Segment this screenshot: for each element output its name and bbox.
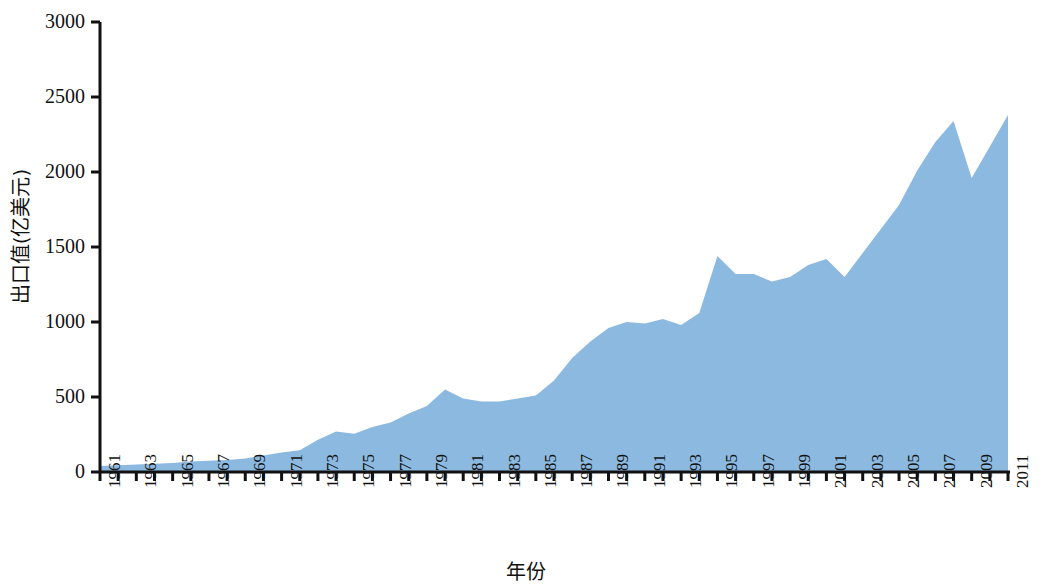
x-axis-tick-label: 1975 bbox=[360, 454, 377, 488]
x-axis-tick-label: 1971 bbox=[288, 454, 305, 488]
x-axis-tick-label: 1991 bbox=[651, 454, 668, 488]
y-axis-tick-label: 1500 bbox=[27, 236, 85, 256]
x-axis-tick-label: 2001 bbox=[832, 454, 849, 488]
x-axis-tick-label: 1987 bbox=[578, 454, 595, 488]
x-axis-tick-label: 1983 bbox=[506, 454, 523, 488]
chart-plot-area bbox=[0, 0, 1051, 586]
x-axis-tick-label: 1979 bbox=[433, 454, 450, 488]
x-axis-tick-label: 1967 bbox=[215, 454, 232, 488]
x-axis-tick-label: 1965 bbox=[179, 454, 196, 488]
x-axis-tick-label: 2005 bbox=[905, 454, 922, 488]
area-series-path bbox=[100, 115, 1008, 472]
y-axis-tick-label: 2000 bbox=[27, 161, 85, 181]
y-axis-tick-label: 3000 bbox=[27, 11, 85, 31]
x-axis-tick-label: 2011 bbox=[1014, 455, 1031, 488]
x-axis-tick-label: 1993 bbox=[687, 454, 704, 488]
x-axis-tick-label: 2009 bbox=[978, 454, 995, 488]
y-axis-tick-label: 500 bbox=[27, 386, 85, 406]
x-axis-tick-label: 1973 bbox=[324, 454, 341, 488]
x-axis-tick-label: 1963 bbox=[142, 454, 159, 488]
y-axis-tick-label: 1000 bbox=[27, 311, 85, 331]
x-axis-tick-label: 2003 bbox=[869, 454, 886, 488]
x-axis-title: 年份 bbox=[0, 556, 1051, 585]
x-axis-tick-label: 1997 bbox=[760, 454, 777, 488]
x-axis-tick-label: 1969 bbox=[251, 454, 268, 488]
x-axis-tick-label: 1999 bbox=[796, 454, 813, 488]
x-axis-tick-label: 2007 bbox=[941, 454, 958, 488]
y-axis-tick-label: 2500 bbox=[27, 86, 85, 106]
y-axis-tick-label: 0 bbox=[27, 461, 85, 481]
x-axis-tick-label: 1977 bbox=[397, 454, 414, 488]
area-chart: 出口值(亿美元) 050010001500200025003000 196119… bbox=[0, 0, 1051, 586]
x-axis-tick-label: 1985 bbox=[542, 454, 559, 488]
x-axis-tick-label: 1981 bbox=[469, 454, 486, 488]
x-axis-tick-label: 1995 bbox=[723, 454, 740, 488]
area-series-fill bbox=[100, 115, 1008, 472]
x-axis-tick-label: 1961 bbox=[106, 454, 123, 488]
x-axis-tick-label: 1989 bbox=[614, 454, 631, 488]
